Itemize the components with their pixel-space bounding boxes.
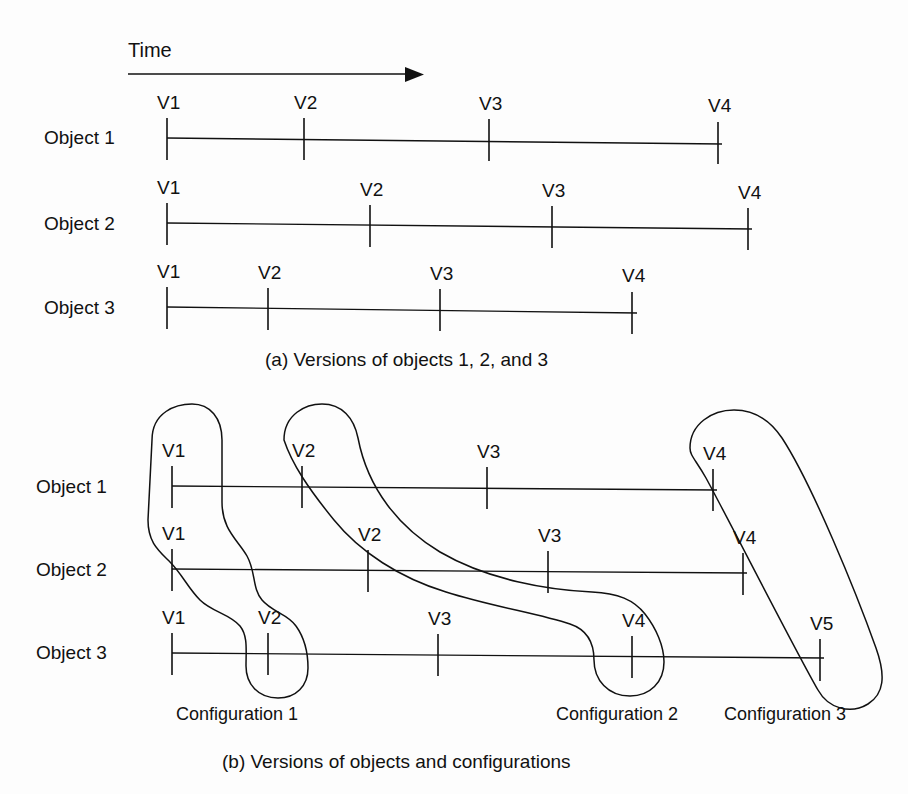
panel-b-object-2-label: Object 2	[36, 560, 107, 579]
configuration-2-label: Configuration 2	[556, 705, 678, 723]
panel-a-o2-version-1-label: V1	[157, 178, 180, 197]
panel-b-o2-version-2-label: V2	[358, 525, 381, 544]
panel-b-timeline-object-2	[172, 549, 747, 595]
panel-a-caption: (a) Versions of objects 1, 2, and 3	[265, 350, 548, 369]
panel-b-o3-version-4-label: V4	[622, 611, 645, 630]
panel-b-timeline-object-3	[172, 633, 824, 681]
panel-a-object-3-label: Object 3	[44, 298, 115, 317]
panel-b-o1-version-1-label: V1	[162, 441, 185, 460]
panel-b-o1-version-2-label: V2	[292, 441, 315, 460]
panel-a-o2-version-2-label: V2	[360, 180, 383, 199]
configuration-2-outline	[284, 404, 664, 696]
panel-a-o3-version-3-label: V3	[430, 264, 453, 283]
panel-b-o3-version-2-label: V2	[258, 608, 281, 627]
panel-a-o3-version-4-label: V4	[622, 266, 645, 285]
time-arrow	[128, 67, 424, 82]
panel-a-timeline-object-1	[167, 118, 722, 164]
panel-a-timeline-object-3	[167, 287, 637, 334]
panel-a-o2-version-3-label: V3	[542, 181, 565, 200]
panel-a-object-1-label: Object 1	[44, 128, 115, 147]
panel-b-object-1-label: Object 1	[36, 477, 107, 496]
panel-a-o2-version-4-label: V4	[738, 183, 761, 202]
panel-a-o1-version-3-label: V3	[479, 94, 502, 113]
panel-b-o2-version-1-label: V1	[162, 524, 185, 543]
panel-a-object-2-label: Object 2	[44, 214, 115, 233]
panel-b-o2-version-3-label: V3	[538, 526, 561, 545]
panel-a-timeline-object-2	[167, 203, 752, 250]
time-axis-label: Time	[128, 40, 172, 60]
panel-b-o1-version-3-label: V3	[477, 442, 500, 461]
panel-a-o1-version-2-label: V2	[294, 93, 317, 112]
panel-b-timeline-object-1	[172, 466, 717, 511]
panel-b-o3-version-3-label: V3	[428, 609, 451, 628]
configuration-1-label: Configuration 1	[176, 705, 298, 723]
configuration-3-label: Configuration 3	[724, 705, 846, 723]
panel-a-o1-version-4-label: V4	[708, 96, 731, 115]
diagram-vector-layer	[0, 0, 908, 794]
panel-b-o3-version-5-label: V5	[810, 614, 833, 633]
panel-b-object-3-label: Object 3	[36, 643, 107, 662]
panel-a-o3-version-2-label: V2	[258, 263, 281, 282]
panel-a-o3-version-1-label: V1	[157, 262, 180, 281]
panel-b-o1-version-4-label: V4	[703, 444, 726, 463]
panel-a-o1-version-1-label: V1	[157, 93, 180, 112]
panel-b-o2-version-4-label: V4	[733, 528, 756, 547]
panel-b-o3-version-1-label: V1	[162, 608, 185, 627]
figure-canvas: Time Object 1 Object 2 Object 3 V1 V2 V3…	[0, 0, 908, 794]
panel-b-caption: (b) Versions of objects and configuratio…	[222, 752, 571, 771]
